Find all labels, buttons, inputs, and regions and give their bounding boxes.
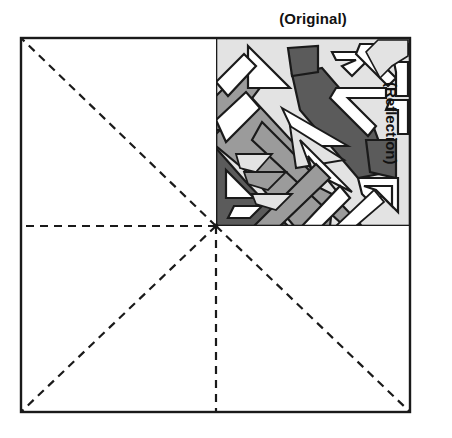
symmetry-figure: (Original) (Reflection) [0,0,452,438]
label-reflection: (Reflection) [383,82,400,165]
motif-shape [288,46,318,76]
label-original: (Original) [248,10,378,27]
symmetry-center-point [214,224,219,229]
pattern-motif [216,38,410,226]
figure-canvas [0,0,452,438]
